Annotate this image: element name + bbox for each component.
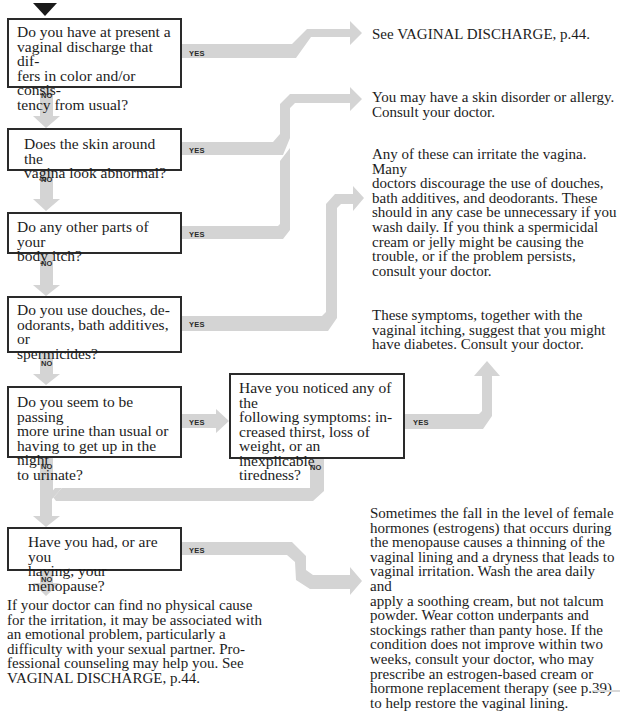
question-box-q2: Does the skin around the vagina look abn… <box>7 128 182 171</box>
question-line: vaginal discharge that dif- <box>17 40 172 69</box>
yes-label-q5: YES <box>189 418 205 427</box>
question-line: odorants, bath additives, or <box>17 318 172 347</box>
answer-line: vaginal itching, suggest that you might <box>372 323 605 338</box>
answer-line: weeks, consult your doctor, who may <box>370 652 620 667</box>
answer-line: fessional counseling may help you. See <box>7 656 262 671</box>
answer-line: stockings rather than panty hose. If the <box>370 623 620 638</box>
yes-label-q2: YES <box>189 146 205 155</box>
answer-line: difficulty with your sexual partner. Pro… <box>7 642 262 657</box>
answer-line: should in any case be unnecessary if you <box>372 205 620 220</box>
answer-line: Sometimes the fall in the level of femal… <box>370 506 620 521</box>
no-label-q5: NO <box>41 462 53 471</box>
no-label-q1: NO <box>41 91 53 100</box>
arrow-q7-yes <box>181 542 362 595</box>
arrow-q4-yes <box>181 186 364 331</box>
answer-line: hormone replacement therapy (see p.39) <box>370 681 620 696</box>
answer-line: consult your doctor. <box>372 264 620 279</box>
arrow-q3-yes <box>181 148 290 239</box>
page-edge-mark <box>594 690 620 692</box>
question-box-q6: Have you noticed any of the following sy… <box>229 373 405 459</box>
answer-line: apply a soothing cream, but not talcum <box>370 594 620 609</box>
yes-label-q4: YES <box>189 320 205 329</box>
question-box-q1: Do you have at present a vaginal dischar… <box>7 18 182 88</box>
question-box-q5: Do you seem to be passing more urine tha… <box>7 386 182 458</box>
answer-line: an emotional problem, particularly a <box>7 627 262 642</box>
question-line: Have you had, or are you <box>28 535 172 564</box>
question-box-q4: Do you use douches, de- odorants, bath a… <box>7 296 182 353</box>
answer-line: VAGINAL DISCHARGE, p.44. <box>7 671 262 686</box>
answer-line: Any of these can irritate the vagina. Ma… <box>372 147 620 176</box>
question-box-q7: Have you had, or are you having, your me… <box>7 527 182 571</box>
question-line: Have you noticed any of the <box>239 381 395 410</box>
question-line: Does the skin around the <box>24 137 172 166</box>
answer-a5: Sometimes the fall in the level of femal… <box>370 506 620 710</box>
answer-line: vaginal irritation. Wash the area daily … <box>370 564 620 593</box>
arrow-q2-yes <box>181 87 362 155</box>
answer-line: cream or jelly might be causing the <box>372 235 620 250</box>
yes-label-q6: YES <box>413 418 429 427</box>
no-label-q2: NO <box>41 175 53 184</box>
answer-line: to help restore the vaginal lining. <box>370 696 620 711</box>
answer-line: doctors discourage the use of douches, <box>372 176 620 191</box>
answer-line: These symptoms, together with the <box>372 308 605 323</box>
no-label-q4: NO <box>41 359 53 368</box>
answer-line: vaginal lining and a dryness that leads … <box>370 550 620 565</box>
answer-line: the menopause causes a thinning of the <box>370 535 620 550</box>
answer-line: trouble, or if the problem persists, <box>372 249 620 264</box>
answer-line: have diabetes. Consult your doctor. <box>372 337 605 352</box>
no-label-q6: NO <box>310 463 322 472</box>
answer-line: bath additives, and deodorants. These <box>372 191 620 206</box>
yes-label-q7: YES <box>189 546 205 555</box>
answer-line: wash daily. If you think a spermicidal <box>372 220 620 235</box>
answer-a6: If your doctor can find no physical caus… <box>7 598 262 686</box>
arrow-q1-yes <box>181 21 362 58</box>
answer-line: powder. Wear cotton underpants and <box>370 608 620 623</box>
answer-line: for the irritation, it may be associated… <box>7 613 262 628</box>
no-label-q7: NO <box>41 575 53 584</box>
answer-a2: You may have a skin disorder or allergy.… <box>372 90 614 119</box>
answer-line: See VAGINAL DISCHARGE, p.44. <box>372 27 590 42</box>
question-line: Do any other parts of your <box>17 220 172 249</box>
answer-a1: See VAGINAL DISCHARGE, p.44. <box>372 27 590 42</box>
answer-line: prescribe an estrogen-based cream or <box>370 667 620 682</box>
start-marker-icon <box>33 3 57 16</box>
yes-label-q1: YES <box>189 49 205 58</box>
answer-line: You may have a skin disorder or allergy. <box>372 90 614 105</box>
yes-label-q3: YES <box>189 230 205 239</box>
answer-line: hormones (estrogens) that occurs during <box>370 521 620 536</box>
answer-line: Consult your doctor. <box>372 105 614 120</box>
no-label-q3: NO <box>41 259 53 268</box>
answer-line: condition does not improve within two <box>370 637 620 652</box>
question-box-q3: Do any other parts of your body itch? <box>7 212 182 254</box>
answer-a4: These symptoms, together with the vagina… <box>372 308 605 352</box>
question-line: Do you seem to be passing <box>17 395 172 424</box>
answer-line: If your doctor can find no physical caus… <box>7 598 262 613</box>
answer-a3: Any of these can irritate the vagina. Ma… <box>372 147 620 278</box>
